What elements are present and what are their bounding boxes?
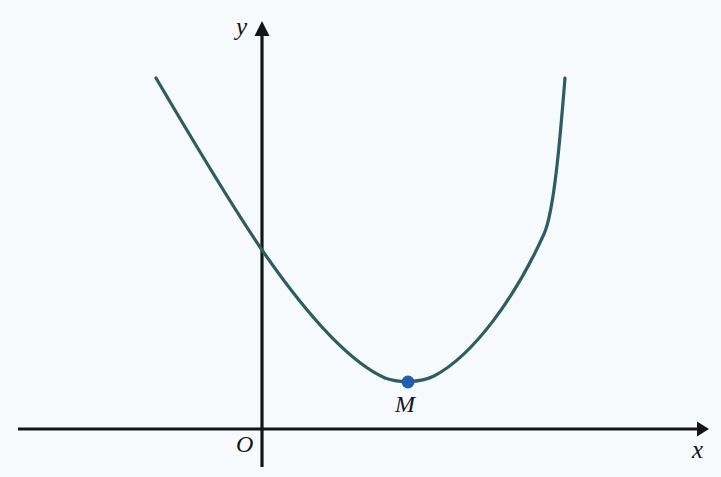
figure-background	[0, 0, 721, 477]
origin-label: O	[236, 432, 253, 456]
vertex-point-label: M	[395, 392, 415, 416]
vertex-point-M[interactable]	[402, 376, 415, 389]
figure-canvas	[0, 0, 721, 477]
y-axis-label: y	[236, 14, 247, 39]
x-axis-label: x	[692, 437, 703, 462]
parabola-figure: y x O M	[0, 0, 721, 477]
